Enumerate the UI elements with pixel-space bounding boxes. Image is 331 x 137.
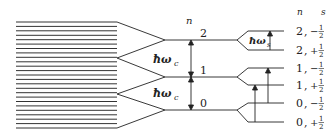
svg-text:,: , (304, 97, 308, 110)
svg-text:2: 2 (319, 51, 323, 59)
svg-text:1: 1 (319, 24, 323, 32)
spin-level-label: 2,+12 (296, 43, 324, 59)
svg-text:,: , (304, 44, 308, 57)
svg-text:,: , (304, 25, 308, 38)
svg-text:1: 1 (296, 62, 303, 75)
spin-level-label: 2,−12 (296, 24, 324, 40)
spin-level-label: 1,−12 (296, 61, 324, 77)
svg-text:1: 1 (319, 96, 323, 104)
svg-text:1: 1 (319, 43, 323, 51)
svg-text:1: 1 (319, 61, 323, 69)
svg-text:0: 0 (296, 116, 303, 129)
svg-text:s: s (267, 41, 271, 49)
continuum-lines (16, 22, 117, 128)
cyclotron-arrows (189, 40, 194, 110)
svg-text:2: 2 (296, 44, 303, 57)
svg-text:2: 2 (319, 69, 323, 77)
svg-text:ħω: ħω (153, 53, 172, 66)
gap-label-lower: ħω c (153, 87, 179, 102)
level-label-0: 0 (200, 97, 207, 110)
spin-gap-label: ħω s (249, 35, 271, 49)
spin-n-header: n (297, 7, 303, 17)
svg-text:,: , (304, 116, 308, 129)
spin-level-label: 0,−12 (296, 96, 324, 112)
svg-text:−: − (310, 26, 318, 37)
spin-level-labels: 2,−122,+121,−121,+120,−120,+12 (296, 24, 324, 131)
svg-text:2: 2 (319, 123, 323, 131)
spin-s-header: s (321, 7, 326, 17)
svg-text:,: , (304, 79, 308, 92)
svg-text:0: 0 (296, 97, 303, 110)
fan-lines (117, 22, 165, 128)
svg-text:1: 1 (319, 115, 323, 123)
svg-text:2: 2 (319, 86, 323, 94)
svg-text:2: 2 (319, 32, 323, 40)
svg-text:ħω: ħω (249, 35, 266, 46)
svg-text:,: , (304, 62, 308, 75)
svg-text:1: 1 (296, 79, 303, 92)
level-label-1: 1 (200, 64, 207, 77)
svg-text:2: 2 (296, 25, 303, 38)
svg-text:2: 2 (319, 104, 323, 112)
svg-text:c: c (174, 59, 179, 68)
svg-text:+: + (310, 45, 318, 56)
svg-text:1: 1 (319, 78, 323, 86)
svg-text:−: − (310, 98, 318, 109)
level-n-header: n (186, 15, 192, 26)
spin-level-label: 1,+12 (296, 78, 324, 94)
landau-level-diagram: n 2 1 0 ħω c ħω c ħω s n s 2,−122,+121,−… (0, 0, 331, 137)
svg-text:+: + (310, 80, 318, 91)
gap-label-upper: ħω c (153, 53, 179, 68)
spin-level-label: 0,+12 (296, 115, 324, 131)
level-label-2: 2 (200, 27, 207, 40)
svg-text:c: c (174, 93, 179, 102)
svg-text:ħω: ħω (153, 87, 172, 100)
svg-text:+: + (310, 117, 318, 128)
svg-text:−: − (310, 63, 318, 74)
